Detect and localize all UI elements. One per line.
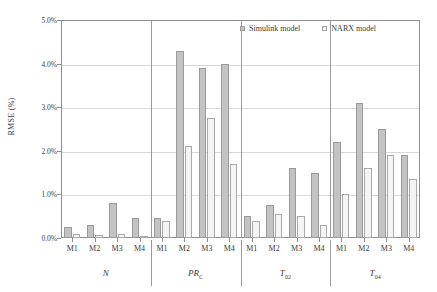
x-axis-tick-mark: [386, 238, 387, 242]
x-axis-group-label: PRC: [188, 268, 203, 280]
chart-figure: RMSE (%) 0.0%1.0%2.0%3.0%4.0%5.0% M1M2M3…: [0, 0, 437, 292]
bar-simulink: [266, 205, 274, 238]
y-axis-tick-label: 5.0%: [5, 16, 57, 25]
legend-item: NARX model: [322, 24, 376, 33]
y-axis-ticks: 0.0%1.0%2.0%3.0%4.0%5.0%: [0, 0, 57, 292]
bar-narx: [297, 216, 305, 238]
bar-narx: [275, 214, 283, 238]
x-axis-tick-label: M2: [358, 244, 369, 253]
bar-simulink: [176, 51, 184, 238]
bar-simulink: [401, 155, 409, 238]
y-axis-tick-label: 0.0%: [5, 234, 57, 243]
x-axis-tick-label: M1: [246, 244, 257, 253]
x-axis-tick-mark: [409, 238, 410, 242]
legend-label: Simulink model: [249, 24, 300, 33]
x-axis-tick-mark: [140, 238, 141, 242]
y-axis-tick-label: 1.0%: [5, 190, 57, 199]
group-separator: [330, 240, 331, 286]
bar-narx: [320, 225, 328, 238]
x-axis-tick-mark: [162, 238, 163, 242]
x-axis-tick-label: M3: [381, 244, 392, 253]
bar-simulink: [356, 103, 364, 238]
bar-narx: [409, 179, 417, 238]
x-axis-tick-label: M2: [89, 244, 100, 253]
chart-legend: Simulink modelNARX model: [240, 24, 376, 33]
x-axis-tick-label: M3: [112, 244, 123, 253]
x-axis-group-label: T02: [280, 268, 291, 280]
bar-narx: [342, 194, 350, 238]
x-axis: M1M2M3M4NM1M2M3M4PRCM1M2M3M4T02M1M2M3M4T…: [61, 238, 420, 292]
bar-simulink: [221, 64, 229, 238]
open-square-icon: [322, 26, 327, 31]
bar-narx: [185, 146, 193, 238]
bar-narx: [207, 118, 215, 238]
bar-narx: [230, 164, 238, 238]
x-axis-tick-mark: [297, 238, 298, 242]
x-axis-tick-label: M4: [403, 244, 414, 253]
x-axis-tick-label: M2: [179, 244, 190, 253]
x-axis-tick-label: M4: [224, 244, 235, 253]
x-axis-tick-mark: [252, 238, 253, 242]
bar-simulink: [64, 227, 72, 238]
bar-simulink: [109, 203, 117, 238]
bar-simulink: [132, 218, 140, 238]
x-axis-tick-mark: [341, 238, 342, 242]
x-axis-tick-label: M1: [156, 244, 167, 253]
x-axis-tick-mark: [274, 238, 275, 242]
x-axis-tick-label: M1: [336, 244, 347, 253]
bar-simulink: [378, 129, 386, 238]
bar-narx: [252, 221, 260, 238]
bar-simulink: [333, 142, 341, 238]
x-axis-tick-mark: [364, 238, 365, 242]
x-axis-tick-mark: [72, 238, 73, 242]
group-separator: [151, 240, 152, 286]
filled-square-icon: [240, 26, 245, 31]
x-axis-tick-mark: [229, 238, 230, 242]
x-axis-group-label: T04: [370, 268, 381, 280]
group-separator-line: [151, 20, 152, 238]
x-axis-tick-mark: [95, 238, 96, 242]
x-axis-tick-mark: [184, 238, 185, 242]
bar-narx: [364, 168, 372, 238]
y-axis-tick-label: 2.0%: [5, 146, 57, 155]
x-axis-tick-mark: [117, 238, 118, 242]
x-axis-tick-mark: [319, 238, 320, 242]
bar-simulink: [199, 68, 207, 238]
group-separator: [241, 240, 242, 286]
y-axis-tick-label: 3.0%: [5, 103, 57, 112]
bar-narx: [387, 155, 395, 238]
x-axis-tick-label: M3: [291, 244, 302, 253]
legend-item: Simulink model: [240, 24, 300, 33]
bar-narx: [162, 221, 170, 238]
bar-simulink: [311, 173, 319, 238]
y-axis-tick-label: 4.0%: [5, 59, 57, 68]
x-axis-tick-label: M4: [313, 244, 324, 253]
legend-label: NARX model: [331, 24, 376, 33]
bar-simulink: [289, 168, 297, 238]
x-axis-tick-label: M1: [67, 244, 78, 253]
bar-simulink: [244, 216, 252, 238]
x-axis-tick-mark: [207, 238, 208, 242]
x-axis-group-label: N: [103, 268, 109, 278]
x-axis-tick-label: M4: [134, 244, 145, 253]
bar-simulink: [87, 225, 95, 238]
x-axis-tick-label: M2: [269, 244, 280, 253]
group-separator-line: [330, 20, 331, 238]
bars-layer: [61, 20, 420, 238]
group-separator-line: [241, 20, 242, 238]
bar-simulink: [154, 218, 162, 238]
x-axis-tick-label: M3: [201, 244, 212, 253]
